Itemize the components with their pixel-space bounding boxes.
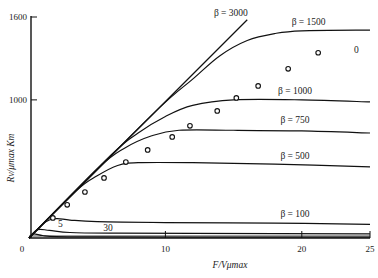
y-tick-label: 1600 [9, 12, 28, 22]
curve-label-500: β = 500 [280, 151, 309, 161]
data-point [51, 216, 56, 221]
series-line-beta-750 [29, 130, 370, 238]
chart: 010202510001600F/VμmaxRv/μmax Km β = 300… [0, 0, 378, 278]
data-point [215, 109, 220, 114]
x-tick-label: 20 [297, 244, 307, 254]
labels: β = 3000β = 1500β = 1000β = 750β = 500β … [58, 8, 359, 234]
data-point [102, 176, 107, 181]
x-tick-label: 10 [161, 244, 171, 254]
curve-label-30: 30 [103, 223, 113, 233]
data-point [170, 135, 175, 140]
data-point [145, 148, 150, 153]
x-tick-label: 0 [20, 244, 25, 254]
series-line-beta-100 [29, 219, 370, 238]
curve-label-0: 0 [354, 45, 359, 55]
series-line-beta-1000 [29, 99, 370, 238]
data-point [316, 50, 321, 55]
data-point [83, 190, 88, 195]
data-points [51, 50, 321, 220]
curve-label-750: β = 750 [280, 115, 309, 125]
curve-label-100: β = 100 [280, 209, 309, 219]
x-tick-label: 25 [366, 244, 376, 254]
series-line-beta-1500 [29, 30, 370, 238]
curve-label-1000: β = 1000 [278, 86, 312, 96]
data-point [256, 84, 261, 89]
y-tick-label: 1000 [9, 95, 28, 105]
curve-label-3000: β = 3000 [214, 8, 248, 18]
data-point [65, 203, 70, 208]
y-axis-label: Rv/μmax Km [6, 133, 16, 183]
data-point [124, 160, 129, 165]
data-point [188, 124, 193, 129]
curve-label-5: 5 [58, 219, 63, 229]
curve-label-1500: β = 1500 [292, 17, 326, 27]
data-point [234, 96, 239, 101]
series-line-beta-500 [29, 162, 370, 238]
x-axis-label: F/Vμmax [212, 260, 249, 270]
data-point [286, 66, 291, 71]
